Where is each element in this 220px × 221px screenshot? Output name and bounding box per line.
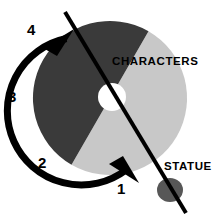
step-label-2: 2 [38, 155, 47, 170]
statue-label: STATUE [164, 161, 212, 173]
diagram-canvas: CHARACTERS STATUE 1 2 3 4 [0, 0, 220, 221]
step-label-1: 1 [117, 181, 126, 196]
step-label-4: 4 [27, 22, 36, 37]
characters-label: CHARACTERS [112, 56, 199, 68]
step-label-3: 3 [8, 89, 17, 104]
